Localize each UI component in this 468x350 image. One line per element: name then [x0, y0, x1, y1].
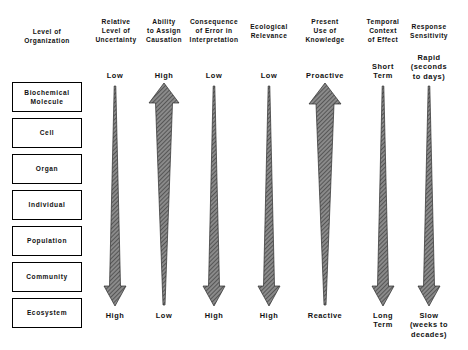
- bottom-label-response-sensitivity: Slow (weeks to decades): [401, 311, 457, 339]
- level-box-population[interactable]: Population: [12, 226, 82, 256]
- top-label-relative-level-of-uncertainty: Low: [95, 71, 135, 80]
- bottom-label-relative-level-of-uncertainty: High: [95, 311, 135, 320]
- bottom-label-present-use-of-knowledge: Reactive: [298, 311, 352, 320]
- arrow-temporal-context-of-effect: [372, 86, 394, 306]
- organization-level-diagram: Level of Organization Relative Level of …: [0, 0, 468, 350]
- arrow-response-sensitivity: [418, 86, 440, 306]
- arrow-present-use-of-knowledge: [309, 83, 341, 305]
- level-box-organ[interactable]: Organ: [12, 154, 82, 184]
- level-box-biochemical-molecule[interactable]: Biochemical Molecule: [12, 82, 82, 112]
- column-header-ecological-relevance: Ecological Relevance: [241, 22, 297, 40]
- level-box-individual[interactable]: Individual: [12, 190, 82, 220]
- column-header-consequence-of-error-in-interpretation: Consequence of Error in Interpretation: [182, 17, 246, 45]
- level-box-community[interactable]: Community: [12, 262, 82, 292]
- top-label-ability-to-assign-causation: High: [144, 71, 184, 80]
- bottom-label-ability-to-assign-causation: Low: [144, 311, 184, 320]
- column-header-level-of-organization: Level of Organization: [10, 27, 84, 45]
- top-label-response-sensitivity: Rapid (seconds to days): [402, 53, 456, 81]
- level-box-cell[interactable]: Cell: [12, 118, 82, 148]
- top-label-ecological-relevance: Low: [249, 71, 289, 80]
- column-header-present-use-of-knowledge: Present Use of Knowledge: [297, 17, 353, 45]
- level-box-ecosystem[interactable]: Ecosystem: [12, 298, 82, 328]
- bottom-label-consequence-of-error-in-interpretation: High: [194, 311, 234, 320]
- arrow-ecological-relevance: [258, 86, 280, 306]
- top-label-temporal-context-of-effect: Short Term: [363, 62, 403, 81]
- top-label-consequence-of-error-in-interpretation: Low: [194, 71, 234, 80]
- bottom-label-ecological-relevance: High: [249, 311, 289, 320]
- arrow-relative-level-of-uncertainty: [104, 86, 126, 306]
- arrow-consequence-of-error-in-interpretation: [203, 86, 225, 306]
- column-header-response-sensitivity: Response Sensitivity: [401, 22, 457, 40]
- top-label-present-use-of-knowledge: Proactive: [298, 71, 352, 80]
- bottom-label-temporal-context-of-effect: Long Term: [363, 311, 403, 330]
- arrow-ability-to-assign-causation: [149, 83, 179, 305]
